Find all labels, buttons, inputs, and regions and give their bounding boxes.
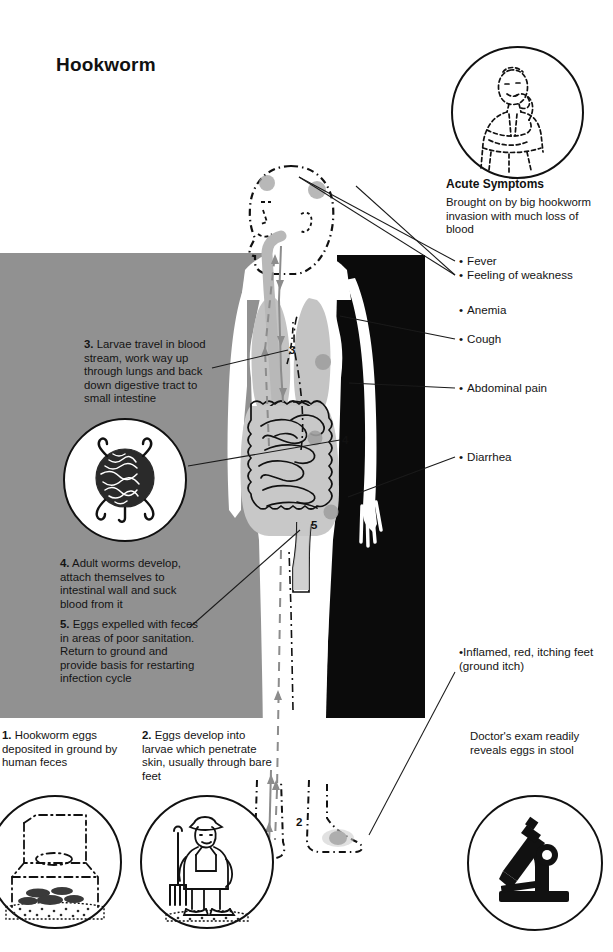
symptom-ground-itch: •Inflamed, red, itching feet (ground itc… <box>459 645 604 673</box>
step-5-number: 5. <box>60 618 70 630</box>
step-2-number: 2. <box>142 729 152 741</box>
outhouse-circle <box>0 795 122 929</box>
worm-cluster-icon <box>65 420 184 539</box>
step-4-number: 4. <box>60 557 70 569</box>
step-5-caption: 5. Eggs expelled with feces in areas of … <box>60 618 200 686</box>
step-1-number: 1. <box>2 729 12 741</box>
microscope-icon <box>469 797 600 928</box>
symptom-label: Diarrhea <box>467 450 511 463</box>
symptom-weakness: •Feeling of weakness <box>459 268 573 282</box>
step-2-text: Eggs develop into larvae which penetrate… <box>142 729 272 782</box>
bullet-icon: • <box>459 381 463 395</box>
acute-symptoms-heading: Acute Symptoms <box>446 177 544 191</box>
symptom-cough: •Cough <box>459 332 501 346</box>
step-3-text: Larvae travel in blood stream, work way … <box>84 338 206 404</box>
symptom-fever: •Fever <box>459 254 497 268</box>
farmer-circle <box>140 795 274 929</box>
step-4-text: Adult worms develop, attach themselves t… <box>60 557 181 610</box>
doctor-exam-note: Doctor's exam readily reveals eggs in st… <box>470 729 610 757</box>
symptom-label: Feeling of weakness <box>467 268 573 281</box>
acute-symptoms-subtitle: Brought on by big hookworm invasion with… <box>446 196 596 237</box>
symptom-anemia: •Anemia <box>459 303 506 317</box>
symptom-label: Fever <box>467 254 497 267</box>
symptom-label: Abdominal pain <box>467 381 547 394</box>
worm-cluster-circle <box>63 418 187 542</box>
bullet-icon: • <box>459 332 463 346</box>
symptom-diarrhea: •Diarrhea <box>459 450 512 464</box>
symptom-label: Inflamed, red, itching feet (ground itch… <box>459 645 593 672</box>
coughing-man-icon <box>453 48 581 176</box>
symptom-label: Anemia <box>467 303 506 316</box>
bullet-icon: • <box>459 254 463 268</box>
symptom-abdominal-pain: •Abdominal pain <box>459 381 547 395</box>
step-2-caption: 2. Eggs develop into larvae which penetr… <box>142 729 274 783</box>
step-4-caption: 4. Adult worms develop, attach themselve… <box>60 557 205 611</box>
step-1-caption: 1. Hookworm eggs deposited in ground by … <box>2 729 132 770</box>
bullet-icon: • <box>459 268 463 282</box>
barefoot-farmer-icon <box>142 797 271 926</box>
outhouse-feces-icon <box>0 797 119 926</box>
bullet-icon: • <box>459 450 463 464</box>
step-3-number: 3. <box>84 338 94 350</box>
infographic-canvas: Hookworm <box>0 0 613 952</box>
step-5-text: Eggs expelled with feces in areas of poo… <box>60 618 198 684</box>
symptom-label: Cough <box>467 332 501 345</box>
feces-pile <box>18 887 84 905</box>
step-1-text: Hookworm eggs deposited in ground by hum… <box>2 729 117 768</box>
microscope-circle <box>467 795 603 931</box>
step-3-caption: 3. Larvae travel in blood stream, work w… <box>84 338 224 406</box>
bullet-icon: • <box>459 303 463 317</box>
coughing-man-circle <box>451 46 584 179</box>
